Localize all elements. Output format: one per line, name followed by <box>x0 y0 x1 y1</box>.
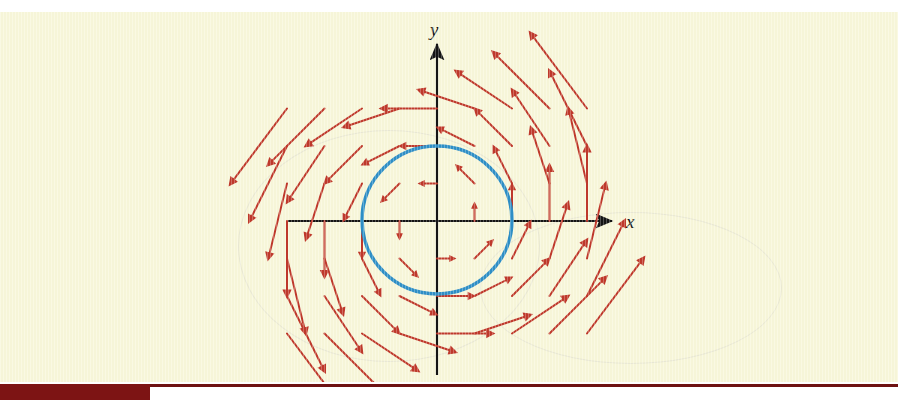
field-arrow-head <box>358 252 366 260</box>
field-arrow-shaft <box>287 334 344 383</box>
field-arrow-shaft <box>268 184 287 259</box>
field-arrow-head <box>416 87 427 96</box>
field-arrow-shaft <box>512 296 568 333</box>
field-arrow-head <box>600 181 609 191</box>
field-arrow-head <box>418 180 425 187</box>
field-arrow-shaft <box>287 259 306 334</box>
field-arrow-shaft <box>531 128 549 183</box>
field-arrow-head <box>529 31 539 41</box>
axes-group <box>288 44 612 375</box>
field-arrow-head <box>398 142 406 150</box>
field-arrow-head <box>229 176 239 186</box>
field-arrow-shaft <box>438 128 474 146</box>
field-arrow-shaft <box>325 146 362 183</box>
field-arrow-head <box>320 270 330 280</box>
field-arrow-head <box>379 104 389 114</box>
field-arrow-head <box>265 251 274 261</box>
field-arrow-head <box>579 238 588 249</box>
field-arrow-head <box>449 255 456 262</box>
field-arrow-shaft <box>419 90 474 108</box>
field-arrow-shaft <box>587 258 644 333</box>
page-top-margin <box>0 0 898 12</box>
field-arrow-shaft <box>550 277 606 333</box>
field-arrow-shaft <box>325 259 343 314</box>
field-arrow-shaft <box>287 146 324 202</box>
field-arrow-head <box>304 138 315 147</box>
footer-chapter-block <box>0 384 150 400</box>
field-arrow-head <box>410 363 421 372</box>
field-arrow-shaft <box>268 109 324 165</box>
field-arrow-shaft <box>512 222 530 258</box>
field-arrow-head <box>560 295 571 304</box>
y-axis-label: y <box>428 19 439 40</box>
field-arrow-head <box>286 194 295 205</box>
field-arrow-shaft <box>512 90 549 146</box>
vector-field-plot: x y <box>0 12 898 382</box>
field-arrow-shaft <box>550 240 587 296</box>
field-arrow-shaft <box>475 315 530 333</box>
field-arrow-shaft <box>475 109 512 146</box>
field-arrow-shaft <box>306 184 324 239</box>
field-arrow-shaft <box>344 109 399 127</box>
field-arrow-head <box>303 231 312 242</box>
field-arrow-head <box>447 345 458 354</box>
field-arrow-shaft <box>344 184 362 220</box>
field-arrow-head <box>636 256 646 266</box>
field-arrow-shaft <box>512 259 549 296</box>
figure-canvas: x y <box>0 12 898 382</box>
field-arrow-head <box>561 200 570 211</box>
field-arrow-shaft <box>230 109 287 184</box>
field-arrow-shaft <box>306 109 362 146</box>
field-arrow-shaft <box>400 296 436 314</box>
field-arrow-shaft <box>362 296 399 333</box>
field-arrow-shaft <box>325 296 362 352</box>
x-axis-label: x <box>625 211 635 232</box>
field-arrow-shaft <box>493 52 549 108</box>
field-arrow-shaft <box>362 334 418 371</box>
field-arrow-head <box>454 70 465 79</box>
field-arrow-head <box>471 202 478 209</box>
field-arrow-head <box>511 88 520 99</box>
field-arrow-shaft <box>456 71 512 108</box>
field-arrow-head <box>396 233 403 240</box>
field-arrow-shaft <box>550 203 568 258</box>
figure-page: x y <box>0 0 898 400</box>
field-arrow-shaft <box>568 109 587 184</box>
field-arrow-head <box>282 290 292 300</box>
field-arrow-shaft <box>400 334 455 352</box>
field-arrow-head <box>354 344 363 355</box>
field-arrow-shaft <box>494 147 512 183</box>
